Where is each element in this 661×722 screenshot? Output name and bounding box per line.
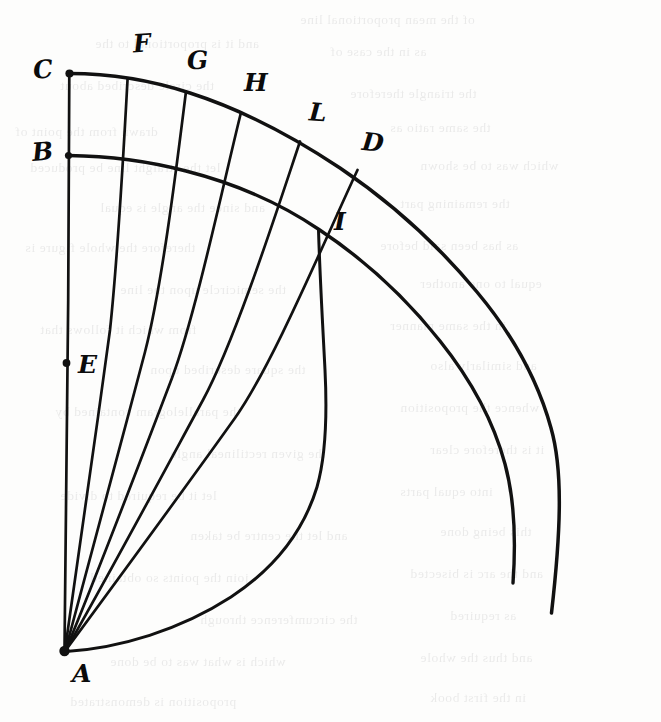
point-dot-E: [63, 359, 71, 367]
point-label-b: B: [31, 138, 54, 165]
point-label-i: I: [334, 209, 346, 234]
geometry-diagram: [0, 0, 661, 722]
inner-arc-B-I: [69, 156, 515, 584]
point-label-c: C: [32, 56, 54, 83]
radial-A-H: [66, 113, 241, 650]
radial-A-D: [67, 170, 358, 649]
point-label-a: A: [72, 661, 91, 686]
point-dot-A: [59, 646, 69, 656]
outer-arc-C-D: [70, 74, 560, 614]
point-dot-C: [65, 69, 73, 77]
point-label-g: G: [187, 48, 209, 74]
point-label-l: L: [308, 99, 327, 125]
figure-root: of the mean proportional lineand it is p…: [0, 0, 661, 722]
point-label-e: E: [78, 352, 97, 377]
point-label-d: D: [361, 129, 385, 156]
point-label-f: F: [132, 30, 151, 56]
point-label-h: H: [244, 70, 268, 95]
point-dot-B: [65, 152, 72, 159]
